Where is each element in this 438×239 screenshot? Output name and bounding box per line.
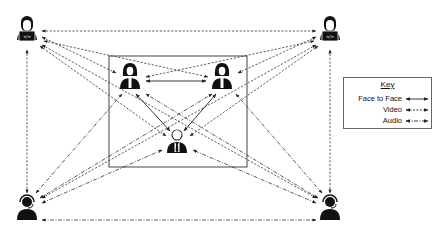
- woman-right-icon: [212, 63, 232, 89]
- developer-top-left-icon: [17, 16, 37, 41]
- legend-item-face-to-face: Face to Face: [344, 94, 433, 104]
- legend: Key Face to Face Video Audio: [343, 77, 432, 129]
- woman-left-icon: [120, 63, 140, 89]
- headset-agent-right-icon: [320, 195, 340, 220]
- legend-label: Audio: [383, 116, 402, 125]
- dashdot-arrow-icon: [404, 118, 430, 124]
- headset-agent-left-icon: [17, 195, 37, 220]
- legend-item-video: Video: [344, 105, 433, 115]
- dashed-arrow-icon: [404, 107, 430, 113]
- legend-title: Key: [344, 80, 431, 89]
- legend-label: Video: [383, 105, 402, 114]
- audio-links: [36, 94, 322, 220]
- solid-arrow-icon: [404, 96, 430, 102]
- legend-label: Face to Face: [358, 94, 402, 103]
- legend-item-audio: Audio: [344, 116, 433, 126]
- businessman-icon: [167, 130, 187, 154]
- developer-top-right-icon: [320, 16, 340, 41]
